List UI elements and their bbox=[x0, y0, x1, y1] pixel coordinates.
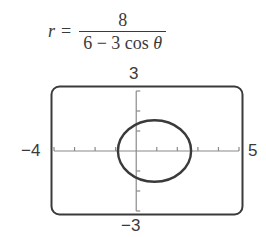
graph-window bbox=[0, 0, 266, 237]
axes bbox=[54, 91, 239, 211]
